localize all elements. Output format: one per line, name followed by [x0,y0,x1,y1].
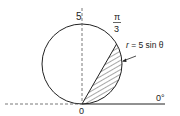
angle-denominator: 3 [114,24,119,34]
arrow-head-icon [122,59,127,63]
angle-numerator: π [114,12,120,22]
curve-equation-label: r = 5 sin θ [126,40,164,50]
polar-diagram: 5 π 3 r = 5 sin θ 0 0° [0,0,180,116]
top-value-label: 5 [76,11,82,22]
initial-line-label: 0° [156,93,165,103]
origin-label: 0 [79,106,84,116]
shaded-region [82,40,130,110]
